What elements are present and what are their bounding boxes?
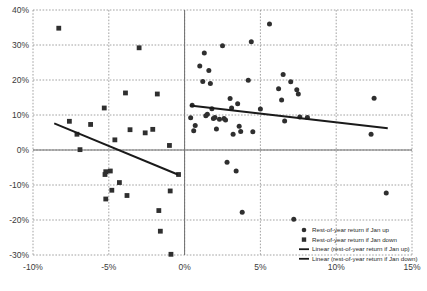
data-point-circle [267, 22, 272, 27]
legend-marker-square [302, 237, 306, 241]
data-point-circle [231, 132, 236, 137]
data-point-square [167, 143, 172, 148]
data-point-circle [223, 117, 228, 122]
data-point-circle [246, 78, 251, 83]
y-tick-label: 20% [12, 75, 29, 85]
x-tick-label: 15% [403, 262, 420, 272]
legend-label: Rest-of-year return if Jan up [312, 226, 390, 233]
data-point-square [103, 197, 108, 202]
data-point-circle [214, 127, 219, 132]
x-tick-label: 10% [328, 262, 345, 272]
chart-canvas: -30%-20%-10%0%10%20%30%40%-10%-5%0%5%10%… [0, 0, 427, 291]
data-point-circle [296, 92, 301, 97]
series-jan-up [188, 22, 389, 222]
data-point-circle [372, 96, 377, 101]
data-point-square [155, 92, 160, 97]
data-point-circle [281, 72, 286, 77]
trendlines [54, 106, 388, 175]
x-tick-label: -5% [101, 262, 117, 272]
y-tick-label: 10% [12, 110, 29, 120]
y-tick-label: 0% [17, 145, 30, 155]
y-tick-label: 30% [12, 40, 29, 50]
data-point-circle [212, 115, 217, 120]
data-point-circle [235, 101, 240, 106]
data-point-square [88, 122, 93, 127]
y-tick-label: -20% [9, 215, 29, 225]
data-point-circle [237, 124, 242, 129]
data-point-circle [200, 79, 205, 84]
data-point-circle [238, 129, 243, 134]
data-point-square [150, 127, 155, 132]
legend: Rest-of-year return if Jan upRest-of-yea… [299, 226, 418, 262]
data-point-circle [188, 115, 193, 120]
data-point-circle [240, 210, 245, 215]
data-point-circle [384, 191, 389, 196]
data-point-square [102, 106, 107, 111]
data-point-square [112, 137, 117, 142]
data-point-square [128, 127, 133, 132]
data-point-circle [369, 132, 374, 137]
data-point-circle [205, 112, 210, 117]
data-point-circle [276, 86, 281, 91]
data-point-circle [228, 96, 233, 101]
series-jan-down [56, 26, 181, 257]
data-point-circle [217, 117, 222, 122]
data-point-square [103, 172, 108, 177]
data-point-circle [282, 118, 287, 123]
y-tick-label: -30% [9, 250, 29, 260]
data-point-circle [202, 51, 207, 56]
data-point-circle [191, 128, 196, 133]
scatter-chart: -30%-20%-10%0%10%20%30%40%-10%-5%0%5%10%… [0, 0, 427, 291]
data-point-square [56, 26, 61, 31]
data-point-square [67, 119, 72, 124]
data-point-square [109, 188, 114, 193]
data-point-square [158, 229, 163, 234]
trendline [54, 123, 178, 174]
data-point-square [125, 193, 130, 198]
legend-label: Rest-of-year return if Jan down [312, 236, 398, 243]
y-tick-label: -10% [9, 180, 29, 190]
data-point-circle [250, 129, 255, 134]
data-point-square [78, 147, 83, 152]
data-point-square [168, 189, 173, 194]
legend-marker-circle [302, 228, 307, 233]
data-point-square [137, 45, 142, 50]
data-point-square [117, 180, 122, 185]
data-point-circle [258, 107, 263, 112]
data-point-circle [193, 123, 198, 128]
data-point-square [169, 252, 174, 257]
y-tick-label: 40% [12, 5, 29, 15]
data-point-circle [220, 43, 225, 48]
data-point-square [108, 169, 113, 174]
data-point-square [123, 91, 128, 96]
data-point-circle [279, 97, 284, 102]
data-point-square [143, 130, 148, 135]
data-point-circle [208, 81, 213, 86]
data-point-circle [206, 68, 211, 73]
x-tick-label: 0% [178, 262, 191, 272]
data-point-circle [197, 64, 202, 69]
data-point-circle [291, 217, 296, 222]
x-tick-label: 5% [254, 262, 267, 272]
data-point-circle [249, 39, 254, 44]
data-point-square [156, 208, 161, 213]
data-point-circle [225, 160, 230, 165]
legend-label: Linear (rest-of-year return if Jan down) [312, 255, 418, 262]
legend-label: Linear (rest-of-year return if Jan up) [312, 245, 410, 252]
x-tick-label: -10% [23, 262, 43, 272]
data-point-circle [234, 169, 239, 174]
data-point-circle [288, 79, 293, 84]
